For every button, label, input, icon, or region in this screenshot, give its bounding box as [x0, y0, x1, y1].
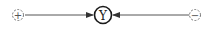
plus-icon: +: [14, 10, 22, 21]
negative-node: −: [190, 10, 201, 21]
positive-node: +: [13, 10, 24, 21]
charge-diagram: + Υ −: [0, 0, 208, 34]
minus-icon: −: [191, 10, 199, 21]
center-node-label: Υ: [98, 9, 108, 23]
center-node: Υ: [95, 7, 112, 24]
